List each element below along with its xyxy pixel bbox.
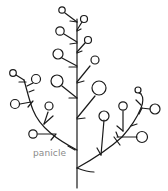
panicle-diagram	[0, 0, 168, 191]
right-branch	[77, 87, 160, 172]
panicle-label: panicle	[33, 148, 66, 158]
left-branch	[10, 70, 77, 150]
upper-flowers	[51, 7, 106, 119]
